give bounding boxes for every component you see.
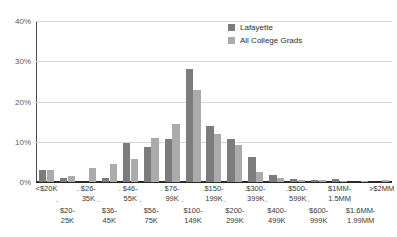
x-tick-label-line: 399K — [246, 194, 265, 204]
x-tick-label-line: 499K — [267, 216, 286, 226]
bar-group — [350, 21, 371, 182]
bar — [193, 90, 200, 182]
x-tick-label-line: $46- — [123, 184, 138, 194]
x-tick-label-line: $600- — [309, 206, 328, 216]
x-tick-label: $500-599K — [288, 184, 307, 203]
bar-group — [36, 21, 57, 182]
x-tick-label-line: $100- — [183, 206, 202, 216]
bar-group — [120, 21, 141, 182]
bar — [248, 157, 255, 182]
x-tick-separator: - — [160, 185, 163, 195]
bar-group — [183, 21, 204, 182]
x-tick-label: $56-75K — [144, 206, 159, 225]
x-tick-label-line: 999K — [309, 216, 328, 226]
x-tick-separator: - — [181, 196, 184, 206]
bar — [68, 176, 75, 182]
x-tick-label: $300-399K — [246, 184, 265, 203]
bar-group — [99, 21, 120, 182]
bar — [311, 180, 318, 182]
y-tick-label: 40% — [15, 17, 31, 26]
x-tick-label-line: $20- — [60, 206, 75, 216]
bar — [227, 139, 234, 182]
x-tick-label: $1MM-1.5MM — [328, 184, 351, 203]
bar-group — [78, 21, 99, 182]
legend-swatch-icon-lafayette — [228, 24, 235, 31]
bar — [131, 159, 138, 182]
bar — [277, 178, 284, 182]
bar — [47, 170, 54, 182]
x-tick-label-line: 149K — [183, 216, 202, 226]
x-tick-label-line: 299K — [225, 216, 244, 226]
bar — [340, 181, 347, 182]
bar — [110, 164, 117, 183]
x-tick-label: $20-25K — [60, 206, 75, 225]
x-tick-label-line: >$2MM — [369, 184, 394, 194]
x-tick-label-line: 1.5MM — [328, 194, 351, 204]
bar — [206, 126, 213, 182]
bar — [165, 139, 172, 182]
bar-group — [308, 21, 329, 182]
x-tick-separator: - — [307, 196, 310, 206]
y-tick-label: 10% — [15, 137, 31, 146]
bar — [319, 180, 326, 182]
bar-group — [204, 21, 225, 182]
x-tick-label-line: $76- — [165, 184, 180, 194]
bar — [60, 178, 67, 182]
x-tick-separator: - — [119, 185, 122, 195]
x-tick-label: $46-55K — [123, 184, 138, 203]
bar — [123, 143, 130, 182]
y-tick-label: 20% — [15, 97, 31, 106]
x-tick-label-line: $1.6MM- — [346, 206, 376, 216]
x-tick-label: >$2MM — [369, 184, 394, 194]
x-tick-separator: - — [349, 196, 352, 206]
x-tick-separator: - — [98, 196, 101, 206]
plot-area: 0%10%20%30%40% — [36, 21, 392, 182]
x-tick-label-line: 25K — [60, 216, 75, 226]
bar — [256, 172, 263, 182]
x-tick-label-line: 199K — [204, 194, 223, 204]
bar-group — [371, 21, 392, 182]
x-tick-label: $26-35K — [81, 184, 96, 203]
x-tick-label: $76-99K — [165, 184, 180, 203]
bar — [172, 124, 179, 182]
bar — [235, 145, 242, 182]
x-tick-separator: - — [139, 196, 142, 206]
bar — [361, 181, 368, 182]
x-tick-label-line: $36- — [102, 206, 117, 216]
x-axis-tick-labels: <$20K-$20-25K-$26-35K-$36-45K-$46-55K-$5… — [36, 183, 392, 237]
bar — [382, 180, 389, 182]
chart-legend: Lafayette All College Grads — [228, 23, 302, 49]
bar — [186, 69, 193, 183]
x-tick-label-line: $300- — [246, 184, 265, 194]
x-tick-label-line: $56- — [144, 206, 159, 216]
x-tick-label: $150-199K — [204, 184, 223, 203]
legend-item-all-college-grads: All College Grads — [228, 36, 302, 45]
x-tick-label-line: $1MM- — [328, 184, 351, 194]
income-distribution-bar-chart: 0%10%20%30%40% Lafayette All College Gra… — [0, 0, 397, 237]
x-tick-label-line: $200- — [225, 206, 244, 216]
x-tick-label: $200-299K — [225, 206, 244, 225]
x-tick-label-line: $400- — [267, 206, 286, 216]
legend-label-all-college-grads: All College Grads — [240, 36, 302, 45]
x-tick-label: $400-499K — [267, 206, 286, 225]
x-tick-label-line: $150- — [204, 184, 223, 194]
legend-item-lafayette: Lafayette — [228, 23, 302, 32]
bar — [102, 178, 109, 182]
bar — [214, 134, 221, 182]
bar-group — [57, 21, 78, 182]
bar-group — [329, 21, 350, 182]
x-tick-label-line: 45K — [102, 216, 117, 226]
y-tick-label: 0% — [19, 178, 31, 187]
x-tick-separator: - — [56, 196, 59, 206]
bar-group — [141, 21, 162, 182]
x-tick-label-line: 99K — [165, 194, 180, 204]
bar — [144, 147, 151, 182]
legend-swatch-icon-all-college-grads — [228, 37, 235, 44]
bar — [298, 180, 305, 182]
legend-label-lafayette: Lafayette — [240, 23, 273, 32]
x-tick-separator: - — [77, 185, 80, 195]
bar — [332, 179, 339, 182]
x-tick-label-line: $26- — [81, 184, 96, 194]
x-tick-label-line: 55K — [123, 194, 138, 204]
y-tick-label: 30% — [15, 57, 31, 66]
